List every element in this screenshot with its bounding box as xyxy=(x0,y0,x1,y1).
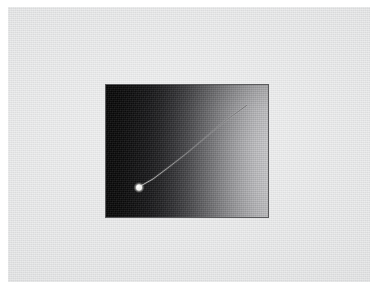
photographic-plate xyxy=(105,84,269,218)
plate-vertical-shading xyxy=(106,85,268,217)
figure-root xyxy=(0,0,378,291)
